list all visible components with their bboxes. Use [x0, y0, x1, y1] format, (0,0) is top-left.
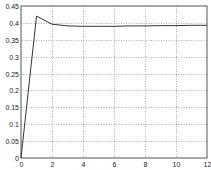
data-line — [21, 16, 207, 158]
plot-area — [21, 6, 207, 158]
y-tick-label: 0.45 — [5, 3, 19, 10]
y-tick-label: 0.3 — [9, 54, 19, 61]
y-axis: 00.050.10.150.20.250.30.350.40.45 — [5, 3, 19, 162]
grid-lines — [21, 6, 207, 158]
y-tick-label: 0.4 — [9, 20, 19, 27]
x-axis: 024681012 — [20, 161, 211, 168]
x-tick-label: 10 — [173, 161, 181, 168]
x-tick-label: 0 — [20, 161, 24, 168]
y-tick-label: 0.35 — [5, 37, 19, 44]
x-tick-label: 6 — [113, 161, 117, 168]
y-tick-label: 0 — [15, 155, 19, 162]
y-tick-label: 0.25 — [5, 71, 19, 78]
y-tick-label: 0.15 — [5, 104, 19, 111]
x-tick-label: 8 — [144, 161, 148, 168]
y-tick-label: 0.2 — [9, 87, 19, 94]
x-tick-label: 12 — [204, 161, 211, 168]
x-tick-label: 2 — [51, 161, 55, 168]
y-tick-label: 0.1 — [9, 121, 19, 128]
line-chart: 00.050.10.150.20.250.30.350.40.45 024681… — [0, 0, 211, 170]
x-tick-label: 4 — [82, 161, 86, 168]
y-tick-label: 0.05 — [5, 138, 19, 145]
